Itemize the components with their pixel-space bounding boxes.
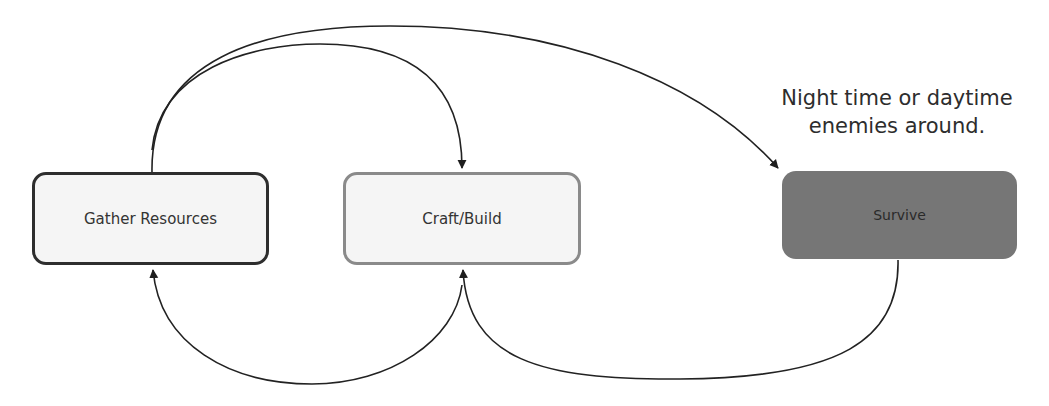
survive-annotation: Night time or daytime enemies around.	[752, 84, 1042, 140]
edge-survive-to-craft	[463, 260, 898, 379]
node-survive: Survive	[782, 171, 1017, 259]
edge-craft-to-gather	[153, 270, 462, 384]
node-label: Craft/Build	[422, 210, 501, 228]
node-craft-build: Craft/Build	[343, 172, 581, 265]
node-label: Survive	[873, 207, 926, 223]
node-gather-resources: Gather Resources	[32, 172, 269, 265]
edge-gather-to-craft	[152, 44, 462, 168]
annotation-line-1: Night time or daytime	[752, 84, 1042, 112]
node-label: Gather Resources	[84, 210, 217, 228]
edge-gather-to-survive	[152, 26, 778, 172]
annotation-line-2: enemies around.	[752, 112, 1042, 140]
